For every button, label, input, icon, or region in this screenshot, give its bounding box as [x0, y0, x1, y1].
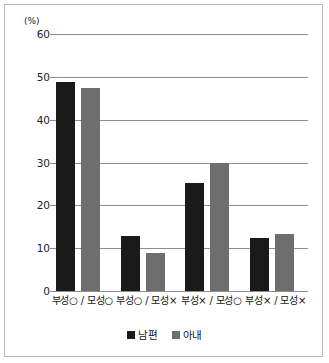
y-tick-label-0: 0: [24, 286, 50, 297]
gridline-0: [50, 291, 308, 292]
legend-item-아내[interactable]: 아내: [172, 330, 203, 341]
legend-swatch-icon: [172, 331, 180, 339]
bar-group: [50, 34, 115, 291]
legend-label: 남편: [138, 330, 158, 341]
legend-label: 아내: [183, 330, 203, 341]
legend-item-남편[interactable]: 남편: [127, 330, 158, 341]
y-tick-label-50: 50: [24, 72, 50, 83]
legend-swatch-icon: [127, 331, 135, 339]
y-tick-label-10: 10: [24, 243, 50, 254]
y-tick-label-20: 20: [24, 200, 50, 211]
bar-group: [179, 34, 244, 291]
y-tick-label-40: 40: [24, 115, 50, 126]
y-tick-label-60: 60: [24, 29, 50, 40]
bar-아내-부성× / 모성×: [275, 234, 294, 291]
y-tick-label-30: 30: [24, 158, 50, 169]
x-category-label: 부성× / 모성○: [179, 295, 244, 307]
chart-legend: 남편아내: [5, 330, 324, 341]
x-category-label: 부성○ / 모성○: [50, 295, 115, 307]
x-category-label: 부성× / 모성×: [244, 295, 309, 307]
bar-chart: (%) 6050403020100 부성○ / 모성○부성○ / 모성×부성× …: [5, 5, 324, 358]
bars-layer: [50, 34, 308, 291]
x-axis-category-labels: 부성○ / 모성○부성○ / 모성×부성× / 모성○부성× / 모성×: [50, 295, 308, 315]
x-category-label: 부성○ / 모성×: [115, 295, 180, 307]
bar-남편-부성○ / 모성×: [121, 236, 140, 291]
plot-area: [50, 34, 308, 291]
y-axis-unit-label: (%): [24, 17, 40, 26]
bar-아내-부성× / 모성○: [210, 163, 229, 291]
bar-group: [244, 34, 309, 291]
bar-아내-부성○ / 모성○: [81, 88, 100, 291]
bar-아내-부성○ / 모성×: [146, 253, 165, 291]
bar-남편-부성× / 모성○: [185, 183, 204, 291]
y-axis-tick-labels: 6050403020100: [20, 34, 50, 291]
bar-남편-부성○ / 모성○: [56, 82, 75, 291]
bar-남편-부성× / 모성×: [250, 238, 269, 291]
bar-group: [115, 34, 180, 291]
chart-frame: (%) 6050403020100 부성○ / 모성○부성○ / 모성×부성× …: [4, 4, 323, 357]
